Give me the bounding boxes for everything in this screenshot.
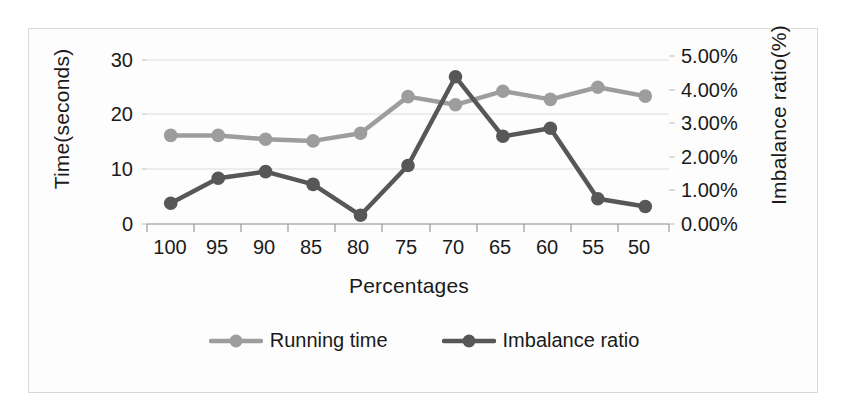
y-right-tick-0pct: 0.00% bbox=[681, 213, 771, 236]
data-point bbox=[639, 200, 653, 214]
y-right-tick-4pct: 4.00% bbox=[681, 79, 771, 102]
x-tick-90: 90 bbox=[241, 236, 287, 259]
data-point bbox=[306, 178, 320, 192]
legend-item-imbalance-ratio[interactable]: Imbalance ratio bbox=[442, 329, 640, 352]
legend-label-imbalance-ratio: Imbalance ratio bbox=[503, 329, 640, 352]
legend-label-running-time: Running time bbox=[270, 329, 388, 352]
x-tick-100: 100 bbox=[147, 236, 193, 259]
x-tick-50: 50 bbox=[616, 236, 662, 259]
y-right-tick-5pct: 5.00% bbox=[681, 45, 771, 68]
x-tick-75: 75 bbox=[383, 236, 429, 259]
x-tick-60: 60 bbox=[524, 236, 570, 259]
gridlines bbox=[147, 60, 669, 224]
y-left-tick-0: 0 bbox=[87, 213, 133, 236]
legend-swatch-running-time bbox=[209, 332, 263, 350]
y-right-tick-3pct: 3.00% bbox=[681, 112, 771, 135]
data-point bbox=[449, 98, 463, 112]
data-point bbox=[544, 121, 558, 135]
x-tick-85: 85 bbox=[288, 236, 334, 259]
data-point bbox=[544, 93, 558, 107]
x-tick-65: 65 bbox=[477, 236, 523, 259]
data-point bbox=[639, 89, 653, 103]
data-point bbox=[211, 172, 225, 186]
data-point bbox=[259, 165, 273, 179]
data-point bbox=[354, 127, 368, 141]
data-point bbox=[496, 130, 510, 144]
data-point bbox=[496, 84, 510, 98]
x-tick-70: 70 bbox=[430, 236, 476, 259]
y-left-tick-10: 10 bbox=[87, 158, 133, 181]
data-point bbox=[401, 90, 415, 104]
y-right-tick-1pct: 1.00% bbox=[681, 179, 771, 202]
y-right-tick-2pct: 2.00% bbox=[681, 146, 771, 169]
data-point bbox=[164, 196, 178, 210]
x-tick-80: 80 bbox=[335, 236, 381, 259]
y-left-tick-20: 20 bbox=[87, 103, 133, 126]
data-point bbox=[401, 159, 415, 173]
y-left-tick-30: 30 bbox=[87, 49, 133, 72]
data-point bbox=[306, 134, 320, 148]
y-left-ticks bbox=[142, 60, 147, 224]
data-point bbox=[449, 70, 463, 84]
data-point bbox=[259, 133, 273, 147]
chart-legend: Running time Imbalance ratio bbox=[29, 329, 819, 352]
y-right-axis-title: Imbalance ratio(%) bbox=[767, 15, 791, 215]
data-point bbox=[211, 129, 225, 143]
chart-figure: 30 20 10 0 5.00% 4.00% 3.00% 2.00% 1.00%… bbox=[0, 0, 848, 419]
x-tick-55: 55 bbox=[570, 236, 616, 259]
data-point bbox=[354, 209, 368, 223]
x-tick-95: 95 bbox=[194, 236, 240, 259]
data-point bbox=[591, 81, 605, 95]
chart-plot-frame: 30 20 10 0 5.00% 4.00% 3.00% 2.00% 1.00%… bbox=[28, 28, 818, 393]
y-left-axis-title: Time(seconds) bbox=[50, 24, 74, 214]
data-point bbox=[591, 192, 605, 206]
x-axis-ticks bbox=[147, 224, 669, 232]
legend-item-running-time[interactable]: Running time bbox=[209, 329, 388, 352]
data-point bbox=[164, 129, 178, 143]
legend-swatch-imbalance-ratio bbox=[442, 332, 496, 350]
x-axis-title: Percentages bbox=[149, 274, 669, 298]
y-right-ticks bbox=[669, 56, 675, 224]
